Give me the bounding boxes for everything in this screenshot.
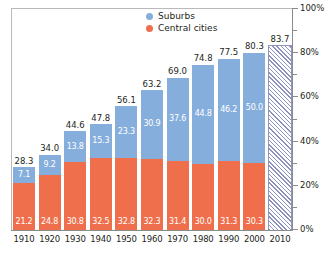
y-axis-label: 60% xyxy=(300,92,319,101)
y-axis-tick xyxy=(293,52,298,53)
bar-segment-suburbs[interactable]: 30.9 xyxy=(140,90,164,158)
bar-segment-central-cities-label: 32.5 xyxy=(92,218,109,226)
legend-swatch-icon xyxy=(146,25,153,32)
x-axis-label-1960: 1960 xyxy=(140,235,164,244)
y-axis-label: 40% xyxy=(300,136,319,145)
legend-item-label: Suburbs xyxy=(158,12,195,21)
bar-segment-central-cities-label: 24.8 xyxy=(41,218,58,226)
bar-column-1990[interactable]: 77.546.231.3 xyxy=(217,9,241,230)
bar-segment-central-cities-label: 30.3 xyxy=(246,218,263,226)
stacked-bar-chart: 28.37.121.234.09.224.844.613.830.847.815… xyxy=(0,0,331,259)
bar-segment-suburbs[interactable]: 44.8 xyxy=(191,65,215,164)
bar-total-label: 34.0 xyxy=(40,144,59,153)
bar-column-1950[interactable]: 56.123.332.8 xyxy=(114,9,138,230)
x-axis-labels: 1910192019301940195019601970198019902000… xyxy=(12,235,292,244)
bars-container: 28.37.121.234.09.224.844.613.830.847.815… xyxy=(12,9,292,230)
bar-segment-central-cities[interactable]: 21.2 xyxy=(12,183,36,230)
bar-segment-suburbs[interactable]: 9.2 xyxy=(38,155,62,175)
bar-segment-suburbs-label: 9.2 xyxy=(44,161,56,169)
bar-segment-central-cities-label: 30.8 xyxy=(67,218,84,226)
legend-swatch-icon xyxy=(146,13,153,20)
bar-segment-central-cities[interactable]: 31.3 xyxy=(217,161,241,230)
bar-segment-suburbs-label: 15.3 xyxy=(92,137,109,145)
y-axis-tick xyxy=(293,229,298,230)
bar-column-1930[interactable]: 44.613.830.8 xyxy=(63,9,87,230)
bar-segment-central-cities[interactable]: 24.8 xyxy=(38,175,62,230)
x-axis-label-2000: 2000 xyxy=(242,235,266,244)
bar-total-label: 44.6 xyxy=(66,121,85,130)
chart-legend: SuburbsCentral cities xyxy=(146,12,217,36)
y-axis-tick xyxy=(293,207,297,208)
bar-total-label: 56.1 xyxy=(117,96,136,105)
x-axis-label-1910: 1910 xyxy=(12,235,36,244)
x-axis-label-2010: 2010 xyxy=(268,235,292,244)
bar-column-1920[interactable]: 34.09.224.8 xyxy=(38,9,62,230)
bar-segment-suburbs[interactable]: 13.8 xyxy=(63,131,87,161)
bar-segment-suburbs-label: 50.0 xyxy=(246,104,263,112)
bar-total-label: 77.5 xyxy=(219,48,238,57)
legend-item-central-cities[interactable]: Central cities xyxy=(146,24,217,33)
x-axis-label-1930: 1930 xyxy=(63,235,87,244)
y-axis-label: 100% xyxy=(300,4,324,13)
y-axis-tick xyxy=(293,96,298,97)
bar-segment-suburbs-label: 46.2 xyxy=(220,106,237,114)
bar-segment-central-cities-label: 31.3 xyxy=(220,218,237,226)
bar-segment-central-cities[interactable]: 30.3 xyxy=(242,163,266,230)
bar-segment-suburbs[interactable]: 37.6 xyxy=(166,78,190,161)
y-axis-label: 20% xyxy=(300,181,319,190)
bar-column-1970[interactable]: 69.037.631.4 xyxy=(166,9,190,230)
x-axis-label-1940: 1940 xyxy=(89,235,113,244)
x-axis-label-1950: 1950 xyxy=(114,235,138,244)
bar-column-1980[interactable]: 74.844.830.0 xyxy=(191,9,215,230)
bar-segment-suburbs-label: 7.1 xyxy=(18,171,30,179)
bar-segment-suburbs[interactable]: 23.3 xyxy=(114,106,138,157)
y-axis-tick xyxy=(293,74,297,75)
bar-segment-central-cities-label: 30.0 xyxy=(195,218,212,226)
bar-segment-suburbs[interactable]: 50.0 xyxy=(242,53,266,164)
bar-column-2000[interactable]: 80.350.030.3 xyxy=(242,9,266,230)
bar-segment-central-cities-label: 32.3 xyxy=(143,218,160,226)
y-axis-tick xyxy=(293,141,298,142)
bar-segment-central-cities[interactable]: 30.8 xyxy=(63,162,87,230)
bar-total-label: 83.7 xyxy=(270,35,289,44)
bar-segment-suburbs[interactable]: 15.3 xyxy=(89,124,113,158)
bar-segment-suburbs-label: 44.8 xyxy=(195,110,212,118)
x-axis-label-1970: 1970 xyxy=(166,235,190,244)
x-axis-label-1980: 1980 xyxy=(191,235,215,244)
x-axis-label-1990: 1990 xyxy=(217,235,241,244)
bar-segment-suburbs[interactable]: 46.2 xyxy=(217,59,241,161)
y-axis-tick xyxy=(293,8,298,9)
bar-segment-central-cities-label: 31.4 xyxy=(169,218,186,226)
y-axis-tick xyxy=(293,30,297,31)
bar-segment-central-cities[interactable]: 30.0 xyxy=(191,164,215,230)
bar-total-label: 28.3 xyxy=(15,157,34,166)
bar-total-label: 47.8 xyxy=(91,114,110,123)
bar-segment-central-cities[interactable]: 32.5 xyxy=(89,158,113,230)
y-axis: 0%20%40%60%80%100% xyxy=(292,8,331,230)
y-axis-tick xyxy=(293,119,297,120)
bar-segment-projected[interactable] xyxy=(268,45,292,230)
bar-segment-suburbs[interactable]: 7.1 xyxy=(12,167,36,183)
bar-total-label: 80.3 xyxy=(245,42,264,51)
bar-column-1960[interactable]: 63.230.932.3 xyxy=(140,9,164,230)
legend-item-suburbs[interactable]: Suburbs xyxy=(146,12,217,21)
bar-segment-central-cities[interactable]: 32.8 xyxy=(114,158,138,230)
bar-segment-central-cities-label: 21.2 xyxy=(15,218,32,226)
bar-total-label: 69.0 xyxy=(168,67,187,76)
bar-segment-suburbs-label: 13.8 xyxy=(67,143,84,151)
bar-segment-suburbs-label: 30.9 xyxy=(143,120,160,128)
bar-total-label: 63.2 xyxy=(143,80,162,89)
legend-item-label: Central cities xyxy=(158,24,217,33)
bar-segment-central-cities[interactable]: 32.3 xyxy=(140,159,164,230)
x-axis-line xyxy=(11,230,293,231)
bar-column-1910[interactable]: 28.37.121.2 xyxy=(12,9,36,230)
bar-total-label: 74.8 xyxy=(194,54,213,63)
bar-column-2010[interactable]: 83.7 xyxy=(268,9,292,230)
bar-segment-suburbs-label: 37.6 xyxy=(169,115,186,123)
y-axis-label: 80% xyxy=(300,48,319,57)
y-axis-tick xyxy=(293,185,298,186)
bar-segment-central-cities[interactable]: 31.4 xyxy=(166,161,190,230)
bar-segment-central-cities-label: 32.8 xyxy=(118,218,135,226)
bar-column-1940[interactable]: 47.815.332.5 xyxy=(89,9,113,230)
y-axis-tick xyxy=(293,163,297,164)
